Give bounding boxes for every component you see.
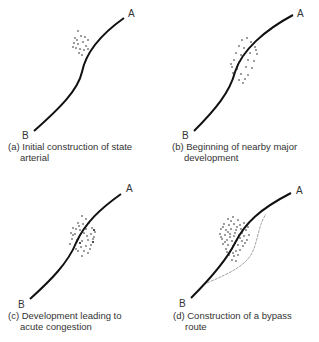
caption-line1: (a) Initial construction of state — [8, 141, 132, 152]
point-a-label: A — [128, 8, 135, 19]
caption-d: (d) Construction of a bypass route — [173, 310, 292, 332]
development-dots-d — [219, 216, 250, 262]
caption-line1: (d) Construction of a bypass — [173, 310, 292, 321]
point-b-label: B — [18, 299, 25, 310]
caption-line1: (c) Development leading to — [8, 310, 122, 321]
caption-line2: route — [173, 321, 292, 332]
caption-a: (a) Initial construction of state arteri… — [8, 141, 132, 163]
caption-line2: development — [172, 152, 297, 163]
caption-line2: arterial — [8, 152, 132, 163]
point-a-label: A — [126, 183, 133, 194]
panel-b: A B (b) Beginning of nearby major develo… — [160, 0, 319, 171]
point-a-label: A — [297, 8, 304, 19]
panel-d: A B (d) Construction of a bypass route — [160, 171, 319, 342]
point-b-label: B — [182, 130, 189, 141]
panel-a: A B (a) Initial construction of state ar… — [0, 0, 160, 171]
caption-line2: acute congestion — [8, 321, 122, 332]
development-dots-a — [72, 30, 89, 56]
caption-line1: (b) Beginning of nearby major — [172, 141, 297, 152]
point-b-label: B — [22, 130, 29, 141]
point-b-label: B — [179, 298, 186, 309]
point-a-label: A — [296, 185, 303, 196]
caption-b: (b) Beginning of nearby major developmen… — [172, 141, 297, 163]
caption-c: (c) Development leading to acute congest… — [8, 310, 122, 332]
bypass-route — [207, 214, 266, 283]
panel-c: A B (c) Development leading to acute con… — [0, 171, 160, 342]
